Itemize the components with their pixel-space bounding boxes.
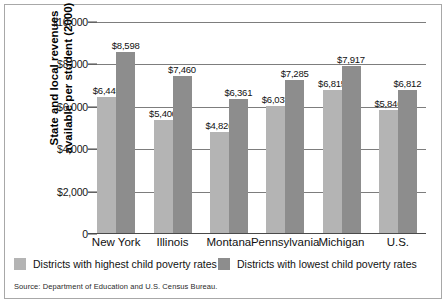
bar-value-label: $7,917 <box>337 54 365 66</box>
y-axis-tick-label: $6,000 <box>57 101 88 113</box>
y-axis-tick-mark <box>88 64 97 65</box>
legend-item[interactable]: Districts with lowest child poverty rate… <box>218 258 417 270</box>
bar <box>116 52 135 234</box>
y-axis-tick-mark <box>88 106 97 107</box>
bar-value-label: $7,285 <box>281 68 309 80</box>
bar-group: $6,037$7,285 <box>266 22 304 234</box>
bar-group: $5,846$6,812 <box>379 22 417 234</box>
bar-group: $4,826$6,361 <box>210 22 248 234</box>
bar <box>210 132 229 234</box>
chart-figure: State and local revenues available per s… <box>0 0 446 303</box>
x-axis-line <box>88 233 426 234</box>
legend-swatch <box>218 258 230 270</box>
source-note: Source: Department of Education and U.S.… <box>14 282 218 291</box>
x-axis-tick-label: New York <box>92 236 141 248</box>
bar <box>266 106 285 234</box>
bar-group: $5,400$7,460 <box>154 22 192 234</box>
plot-area: $6,445$8,598$5,400$7,460$4,826$6,361$6,0… <box>88 22 426 234</box>
legend-item[interactable]: Districts with highest child poverty rat… <box>14 258 217 270</box>
bar-value-label: $6,361 <box>224 87 252 99</box>
bar-group: $6,445$8,598 <box>97 22 135 234</box>
bar <box>97 97 116 234</box>
y-axis-tick-label: $2,000 <box>57 186 88 198</box>
bar <box>173 76 192 234</box>
y-axis: 0$2,000$4,000$6,000$8,000$10,000 <box>40 22 88 234</box>
bar <box>229 99 248 234</box>
bar <box>323 90 342 234</box>
x-axis-labels: New YorkIllinoisMontanaPennsylvaniaMichi… <box>88 236 426 252</box>
x-axis-tick-label: Michigan <box>318 236 364 248</box>
y-axis-tick-label: $4,000 <box>57 143 88 155</box>
y-axis-tick-mark <box>88 234 97 235</box>
x-axis-tick-label: Illinois <box>157 236 189 248</box>
y-axis-tick-label: $10,000 <box>51 16 88 28</box>
legend-swatch <box>14 258 26 270</box>
chart-legend: Districts with highest child poverty rat… <box>14 258 432 274</box>
bar-value-label: $6,812 <box>393 78 421 90</box>
bar <box>398 90 417 234</box>
legend-label: Districts with lowest child poverty rate… <box>237 258 417 270</box>
y-axis-tick-label: $8,000 <box>57 58 88 70</box>
bar-value-label: $7,460 <box>168 64 196 76</box>
y-axis-tick-mark <box>88 22 97 23</box>
y-axis-tick-mark <box>88 149 97 150</box>
bar <box>154 120 173 234</box>
x-axis-tick-label: Montana <box>206 236 251 248</box>
x-axis-tick-label: Pennsylvania <box>251 236 319 248</box>
bar-group: $6,815$7,917 <box>323 22 361 234</box>
x-axis-tick-label: U.S. <box>387 236 409 248</box>
bar-value-label: $8,598 <box>112 40 140 52</box>
y-axis-tick-mark <box>88 191 97 192</box>
legend-label: Districts with highest child poverty rat… <box>33 258 217 270</box>
bar <box>342 66 361 234</box>
bar <box>285 80 304 234</box>
bars-layer: $6,445$8,598$5,400$7,460$4,826$6,361$6,0… <box>88 22 426 234</box>
bar <box>379 110 398 234</box>
